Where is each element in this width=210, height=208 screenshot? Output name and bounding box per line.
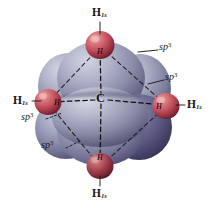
hydrogen-label-right-symbol: H (187, 98, 196, 110)
hydrogen-label-bottom: H1s (92, 188, 107, 200)
hydrogen-sphere-mark-top: H (97, 48, 103, 56)
sp3-label-lower-left-text: sp (21, 111, 30, 122)
hydrogen-label-bottom-symbol: H (92, 187, 101, 199)
leader-sp3-top-right (138, 50, 158, 52)
hydrogen-label-left-subscript: 1s (22, 99, 28, 106)
hydrogen-label-top-symbol: H (92, 6, 101, 18)
sp3-label-lower-left-superscript: 3 (30, 111, 33, 118)
sp3-label-top-right: sp3 (159, 42, 171, 52)
sp3-label-bottom-left-superscript: 3 (50, 139, 53, 146)
sp3-label-right-text: sp (165, 71, 174, 82)
sp3-label-right-superscript: 3 (174, 71, 177, 78)
hydrogen-sphere-mark-right: H (156, 103, 162, 111)
hydrogen-label-bottom-subscript: 1s (101, 192, 107, 199)
hydrogen-label-right-subscript: 1s (196, 103, 202, 110)
hydrogen-label-left: H1s (13, 95, 28, 107)
hydrogen-label-top-subscript: 1s (101, 11, 107, 18)
hydrogen-sphere-mark-bottom: H (97, 154, 103, 162)
sp3-label-bottom-left-text: sp (41, 139, 50, 150)
sp3-label-top-right-superscript: 3 (168, 41, 171, 48)
hydrogen-sphere-mark-left: H (54, 99, 60, 107)
hydrogen-label-left-symbol: H (13, 94, 22, 106)
sp3-label-top-right-text: sp (159, 41, 168, 52)
sp3-label-bottom-left: sp3 (41, 140, 53, 150)
sp3-hybrid-orbital-figure: C H1s H1s H1s H1s H H H H sp3 sp3 sp3 sp… (0, 0, 210, 208)
hydrogen-label-top: H1s (92, 7, 107, 19)
sp3-label-lower-left: sp3 (21, 112, 33, 122)
carbon-atom-label: C (96, 92, 105, 105)
hydrogen-label-right: H1s (187, 99, 202, 111)
sp3-label-right: sp3 (165, 72, 177, 82)
